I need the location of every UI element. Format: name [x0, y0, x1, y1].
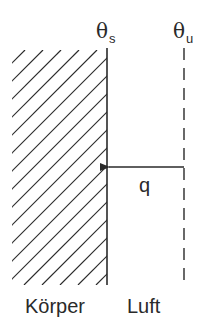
heat-transfer-diagram — [0, 0, 207, 331]
body-label: Körper — [25, 296, 85, 316]
heat-flux-label: q — [139, 175, 150, 195]
theta-symbol: θ — [96, 19, 108, 43]
theta-symbol: θ — [173, 19, 185, 43]
air-label: Luft — [127, 296, 160, 316]
ambient-temperature-label: θu — [173, 21, 193, 41]
surface-temperature-label: θs — [96, 21, 116, 41]
subscript-s: s — [109, 31, 116, 46]
subscript-u: u — [186, 31, 193, 46]
